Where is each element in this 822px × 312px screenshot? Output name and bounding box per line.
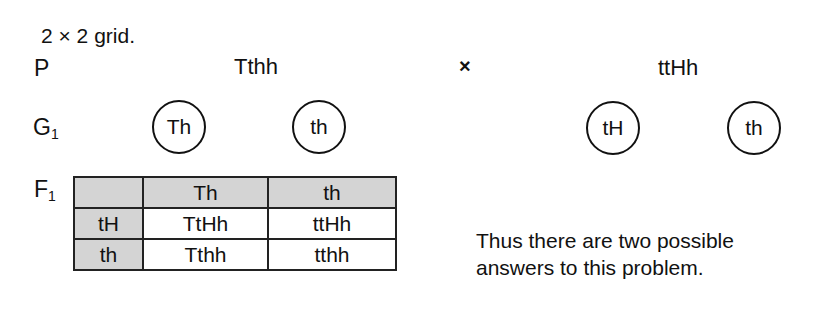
- f1-label-text: F: [34, 176, 48, 202]
- gamete-circle-left-2: th: [292, 100, 346, 154]
- punnett-cell: Tthh: [143, 239, 268, 270]
- cross-symbol: ×: [459, 56, 471, 76]
- gamete-generation-label: G1: [33, 116, 59, 141]
- parent-left-genotype: Tthh: [234, 56, 278, 78]
- gamete-label-subscript: 1: [51, 126, 59, 142]
- punnett-row-header: th: [74, 239, 143, 270]
- gamete-circle-right-1: tH: [586, 101, 640, 155]
- punnett-row-header: tH: [74, 208, 143, 239]
- punnett-row: tH TtHh ttHh: [74, 208, 396, 239]
- gamete-label-text: G: [33, 114, 51, 140]
- punnett-corner-cell: [74, 177, 143, 208]
- gamete-circle-right-2: th: [727, 101, 781, 155]
- punnett-header-row: Th th: [74, 177, 396, 208]
- punnett-cell: ttHh: [268, 208, 396, 239]
- parent-right-genotype: ttHh: [658, 57, 698, 79]
- punnett-row: th Tthh tthh: [74, 239, 396, 270]
- punnett-cell: TtHh: [143, 208, 268, 239]
- punnett-cell: tthh: [268, 239, 396, 270]
- f1-generation-label: F1: [34, 178, 56, 203]
- punnett-col-header: th: [268, 177, 396, 208]
- parent-generation-label: P: [34, 57, 49, 80]
- conclusion-text: Thus there are two possible answers to t…: [476, 227, 806, 281]
- punnett-square: Th th tH TtHh ttHh th Tthh tthh: [73, 176, 397, 271]
- gamete-circle-left-1: Th: [152, 100, 206, 154]
- punnett-col-header: Th: [143, 177, 268, 208]
- f1-label-subscript: 1: [48, 188, 56, 204]
- caption: 2 × 2 grid.: [41, 25, 135, 46]
